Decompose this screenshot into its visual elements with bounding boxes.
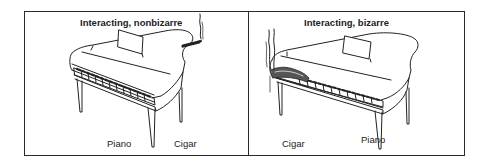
label-cigar: Cigar xyxy=(174,138,197,149)
label-piano: Piano xyxy=(107,138,131,149)
label-piano: Piano xyxy=(361,134,385,145)
piano-illustration xyxy=(249,12,465,157)
label-cigar: Cigar xyxy=(282,138,305,149)
piano-illustration xyxy=(25,12,249,157)
figure-frame: Interacting, nonbizarre xyxy=(24,11,465,156)
panel-bizarre: Interacting, bizarre xyxy=(249,12,464,155)
panel-nonbizarre: Interacting, nonbizarre xyxy=(25,12,249,155)
